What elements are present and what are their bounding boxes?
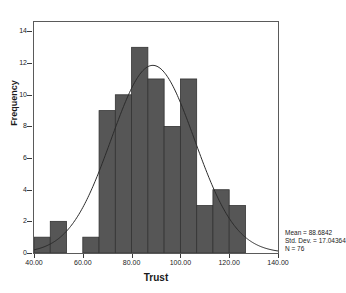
y-axis-tick-mark [27, 31, 32, 32]
stat-stddev: Std. Dev. = 17.04364 [285, 237, 346, 245]
y-axis-tick-mark [27, 190, 32, 191]
y-axis-tick-label: 6 [9, 154, 27, 161]
x-axis-tick-mark [278, 254, 279, 258]
y-axis-tick-mark [27, 253, 32, 254]
y-axis-tick-mark [27, 221, 32, 222]
histogram-bar [180, 79, 196, 253]
x-axis-tick-label: 60.00 [63, 259, 103, 266]
y-axis-tick-label: 10 [9, 91, 27, 98]
x-axis-tick-mark [229, 254, 230, 258]
x-axis-tick-mark [34, 254, 35, 258]
x-axis-tick-label: 80.00 [112, 259, 152, 266]
y-axis-tick-label: 12 [9, 59, 27, 66]
plot-svg [34, 22, 278, 253]
y-axis-tick-mark [27, 95, 32, 96]
y-axis-tick-labels: 02468101214 [7, 0, 27, 293]
x-axis-tick-label: 40.00 [14, 259, 54, 266]
y-axis-tick-label: 2 [9, 217, 27, 224]
histogram-bar [115, 95, 131, 253]
x-axis-tick-label: 100.00 [160, 259, 200, 266]
plot-area [33, 21, 279, 254]
y-axis-tick-label: 14 [9, 27, 27, 34]
x-axis-tick-mark [132, 254, 133, 258]
histogram-bar [99, 111, 115, 253]
y-axis-tick-label: 4 [9, 186, 27, 193]
stat-n: N = 76 [285, 245, 346, 253]
y-axis-tick-label: 0 [9, 249, 27, 256]
x-axis-title: Trust [33, 272, 279, 283]
y-axis-tick-mark [27, 126, 32, 127]
stat-mean: Mean = 88.6842 [285, 229, 346, 237]
histogram-bar [197, 206, 213, 253]
x-axis-tick-label: 120.00 [209, 259, 249, 266]
histogram-bar [213, 190, 229, 253]
y-axis-tick-label: 8 [9, 122, 27, 129]
histogram-bar [164, 126, 180, 253]
x-axis-tick-label: 140.00 [258, 259, 298, 266]
x-axis-tick-mark [180, 254, 181, 258]
x-axis-tick-mark [83, 254, 84, 258]
histogram-bar [148, 79, 164, 253]
histogram-bar [83, 237, 99, 253]
y-axis-tick-mark [27, 158, 32, 159]
y-axis-tick-mark [27, 63, 32, 64]
statistics-annotation: Mean = 88.6842 Std. Dev. = 17.04364 N = … [285, 229, 346, 253]
histogram-bar [132, 47, 148, 253]
histogram-bar [50, 221, 66, 253]
